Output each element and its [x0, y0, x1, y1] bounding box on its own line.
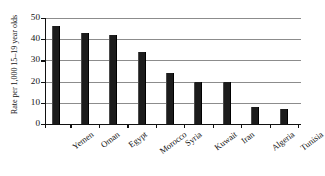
x-axis-tick-label: Morocco	[158, 130, 188, 156]
x-axis-label-syria: Syria	[184, 130, 204, 148]
y-axis-tick-label: 40	[31, 35, 40, 44]
x-axis-tick-label: Oman	[99, 130, 121, 150]
x-axis-label-kuwait: Kuwait	[214, 130, 239, 152]
x-axis-tick-label: Tunisia	[299, 130, 325, 152]
x-axis-tick-label: Algeria	[271, 130, 297, 152]
bar	[194, 82, 202, 124]
x-axis-label-oman: Oman	[99, 130, 121, 150]
bar	[109, 35, 117, 124]
y-axis-tick-label: 20	[31, 77, 40, 86]
x-axis-label-egypt: Egypt	[127, 130, 149, 149]
bar	[166, 73, 174, 124]
x-axis-tick-label: Yemen	[71, 130, 95, 151]
x-axis-tick-label: Egypt	[127, 130, 149, 149]
bar	[280, 109, 288, 124]
bar	[223, 82, 231, 124]
bar	[138, 52, 146, 124]
x-axis-line	[45, 124, 301, 125]
y-axis-tick-label: 0	[35, 119, 40, 128]
x-axis-label-tunisia: Tunisia	[299, 130, 325, 152]
y-axis-tick-label: 30	[31, 56, 40, 65]
x-axis-tick-label: Iran	[240, 130, 256, 145]
y-axis-tick-label: 50	[31, 13, 40, 22]
plot-area: 01020304050	[45, 18, 301, 124]
y-axis-line	[45, 18, 46, 125]
bar	[52, 26, 60, 124]
gridline	[45, 18, 301, 19]
y-axis-title: Rate per 1,000 15–19 year olds	[10, 5, 19, 125]
y-axis-tick-label: 10	[31, 98, 40, 107]
bar	[81, 33, 89, 124]
x-axis-label-yemen: Yemen	[71, 130, 95, 151]
x-axis-label-algeria: Algeria	[271, 130, 297, 152]
bar	[251, 107, 259, 124]
x-axis-tick-label: Syria	[184, 130, 204, 148]
x-axis-label-morocco: Morocco	[158, 130, 188, 156]
x-axis-tick-label: Kuwait	[214, 130, 239, 152]
x-axis-label-iran: Iran	[240, 130, 256, 145]
